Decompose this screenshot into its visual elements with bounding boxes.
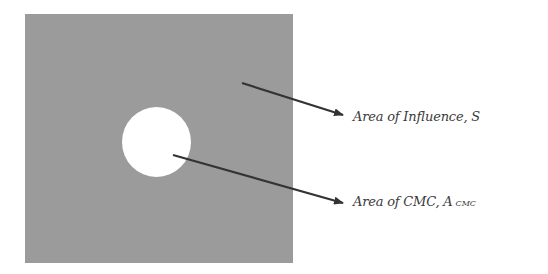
label-cmc-text: Area of CMC, A: [353, 194, 453, 209]
arrow-influence-icon: [242, 83, 343, 115]
label-area-of-influence: Area of Influence, S: [353, 109, 480, 124]
diagram-canvas: Area of Influence, S Area of CMC, ACMC: [0, 0, 548, 274]
arrows-layer: [0, 0, 548, 274]
arrow-cmc-icon: [173, 155, 343, 203]
label-influence-text: Area of Influence, S: [353, 109, 480, 124]
label-cmc-subscript: CMC: [456, 199, 476, 208]
label-area-of-cmc: Area of CMC, ACMC: [353, 194, 476, 209]
